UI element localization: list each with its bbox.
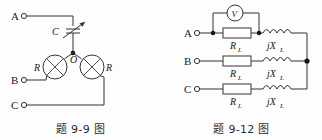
terminal-b-label: B — [184, 55, 191, 67]
terminal-b-label: B — [11, 74, 18, 86]
resistor-b-subscript: L — [237, 74, 242, 82]
junction-a-left-dot — [211, 31, 215, 35]
junction-a-right-dot — [257, 31, 261, 35]
figure-9-9-caption: 题 9-9 图 — [0, 120, 161, 136]
neutral-node-dot — [304, 58, 309, 63]
capacitor-label: C — [52, 26, 59, 37]
inductor-a-label: jX — [265, 40, 277, 51]
resistor-a-subscript: L — [237, 46, 242, 54]
wire-c-to-neutral — [291, 61, 307, 89]
figure-9-12-drawing: V A R L jX L B R L — [161, 0, 322, 140]
wire-a-to-neutral — [291, 33, 307, 61]
figure-9-9: A B C C R R O 题 9-9 图 — [0, 0, 161, 140]
inductor-c-subscript: L — [279, 102, 284, 110]
terminal-c-ring — [21, 102, 26, 107]
resistor-a-body — [223, 28, 251, 38]
figure-9-12: V A R L jX L B R L — [161, 0, 322, 140]
terminal-b-ring — [194, 58, 199, 63]
resistor-c-subscript: L — [237, 102, 242, 110]
resistor-b-body — [223, 56, 251, 66]
terminal-c-label: C — [11, 99, 18, 111]
neutral-node-label: O — [70, 54, 77, 65]
inductor-b-coil — [263, 58, 291, 62]
resistor-c-label: R — [229, 96, 236, 107]
terminal-a-label: A — [184, 27, 192, 39]
terminal-a-label: A — [11, 10, 19, 22]
lamp-right-label: R — [105, 62, 112, 73]
inductor-a-subscript: L — [279, 46, 284, 54]
inductor-b-label: jX — [265, 68, 277, 79]
terminal-a-ring — [194, 30, 199, 35]
figure-9-9-drawing: A B C C R R O — [0, 0, 161, 140]
terminal-b-ring — [21, 77, 26, 82]
wire-b-to-lamp-left — [27, 76, 47, 80]
lamp-left-label: R — [33, 62, 40, 73]
inductor-c-coil — [263, 86, 291, 90]
wire-a-to-capacitor — [27, 16, 73, 26]
inductor-a-coil — [263, 30, 291, 34]
figure-9-12-caption: 题 9-12 图 — [161, 120, 322, 136]
terminal-a-ring — [21, 13, 26, 18]
resistor-a-label: R — [229, 40, 236, 51]
inductor-c-label: jX — [265, 96, 277, 107]
terminal-c-ring — [194, 86, 199, 91]
figure-sheet: A B C C R R O 题 9-9 图 V A R — [0, 0, 322, 140]
resistor-b-label: R — [229, 68, 236, 79]
resistor-c-body — [223, 84, 251, 94]
terminal-c-label: C — [184, 83, 191, 95]
inductor-b-subscript: L — [279, 74, 284, 82]
